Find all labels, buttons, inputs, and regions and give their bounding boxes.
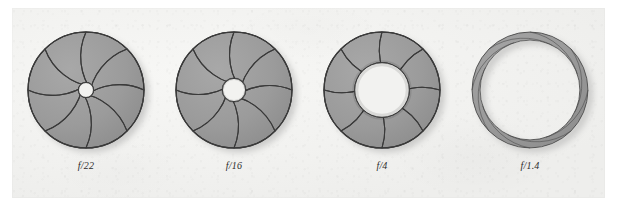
iris-diaphragm [166, 22, 302, 158]
iris-shadow-group [472, 32, 588, 148]
iris-diaphragm [18, 22, 154, 158]
aperture-label: f/22 [12, 160, 160, 171]
retracted-blade-ring [472, 32, 588, 148]
page-bleed-text [0, 0, 630, 8]
aperture-stage-f22: f/22 [12, 8, 160, 198]
figure-panel: f/22f/16f/4f/1.4 [12, 8, 605, 198]
aperture-stage-f16: f/16 [160, 8, 308, 198]
aperture-stage-f4: f/4 [308, 8, 456, 198]
aperture-label: f/16 [160, 160, 308, 171]
figure-root: f/22f/16f/4f/1.4 [0, 0, 630, 218]
aperture-series: f/22f/16f/4f/1.4 [12, 8, 605, 198]
aperture-stage-f14: f/1.4 [456, 8, 604, 198]
aperture-label: f/1.4 [456, 160, 604, 171]
aperture-label: f/4 [308, 160, 456, 171]
iris-diaphragm [314, 22, 450, 158]
iris-diaphragm [462, 22, 598, 158]
